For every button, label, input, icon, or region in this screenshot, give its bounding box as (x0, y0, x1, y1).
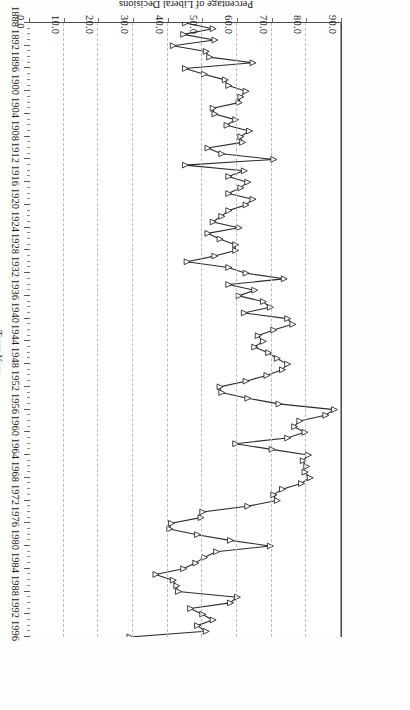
data-point-marker (247, 128, 253, 134)
gridline-80.0 (305, 23, 306, 637)
rotated-figure: 0.010.020.030.040.050.060.070.080.090.0 … (0, 0, 410, 710)
data-point-marker (236, 225, 242, 231)
data-point-marker (271, 327, 277, 333)
term-year-tick-minor (27, 306, 30, 307)
term-year-tick-minor (27, 85, 30, 86)
data-point-marker (214, 549, 220, 555)
data-point-marker (226, 265, 232, 271)
data-point-marker (250, 60, 256, 66)
data-point-marker (212, 111, 218, 117)
term-year-tick-minor (27, 170, 30, 171)
term-year-tick-major (24, 318, 30, 319)
term-year-tick-minor (27, 198, 30, 199)
term-year-tick-minor (27, 33, 30, 34)
data-point-marker (307, 475, 313, 481)
term-year-tick-minor (27, 39, 30, 40)
data-point-marker (226, 191, 232, 197)
term-year-tick-minor (27, 357, 30, 358)
data-point-marker (207, 54, 213, 60)
term-year-tick-major (24, 90, 30, 91)
term-year-tick-minor (27, 528, 30, 529)
term-year-tick-minor (27, 414, 30, 415)
term-year-tick-major (24, 591, 30, 592)
percentage-tick-label: 90.0 (327, 15, 338, 34)
data-point-marker (280, 486, 286, 492)
term-year-tick-minor (27, 443, 30, 444)
data-point-marker (243, 88, 249, 94)
term-year-tick-label: 1892 (10, 29, 21, 50)
term-year-tick-minor (27, 471, 30, 472)
term-year-tick-minor (27, 585, 30, 586)
term-year-tick-minor (27, 562, 30, 563)
term-year-tick-label: 1960 (10, 415, 21, 436)
data-point-marker (202, 71, 208, 77)
data-point-marker (210, 617, 216, 623)
term-year-tick-minor (27, 50, 30, 51)
term-year-tick-minor (27, 374, 30, 375)
term-year-tick-minor (27, 301, 30, 302)
term-year-tick-minor (27, 397, 30, 398)
term-year-tick-major (24, 613, 30, 614)
data-point-marker (169, 520, 175, 526)
gridline-40.0 (167, 23, 168, 637)
term-year-tick-label: 1924 (10, 211, 21, 232)
data-point-marker (176, 589, 182, 595)
term-year-tick-minor (27, 579, 30, 580)
data-series-layer (29, 23, 341, 637)
percentage-tick (237, 18, 238, 23)
data-point-marker (226, 282, 232, 288)
data-point-marker (245, 179, 251, 185)
term-year-tick-minor (27, 130, 30, 131)
data-point-marker (274, 498, 280, 504)
term-year-tick-minor (27, 215, 30, 216)
term-year-tick-minor (27, 488, 30, 489)
data-point-marker (212, 253, 218, 259)
data-point-marker (202, 555, 208, 561)
term-year-tick-label: 1896 (10, 51, 21, 72)
term-year-tick-minor (27, 238, 30, 239)
term-year-tick-label: 1948 (10, 347, 21, 368)
data-point-marker (222, 77, 228, 83)
term-year-tick-major (24, 454, 30, 455)
data-point-marker (297, 418, 303, 424)
term-year-tick-label: 1908 (10, 120, 21, 141)
term-year-tick-minor (27, 625, 30, 626)
gridline-60.0 (236, 23, 237, 637)
term-year-tick-minor (27, 210, 30, 211)
term-year-tick-major (24, 522, 30, 523)
term-year-tick-minor (27, 534, 30, 535)
data-point-marker (332, 407, 338, 413)
term-year-tick-minor (27, 176, 30, 177)
percentage-tick (64, 18, 65, 23)
term-year-tick-minor (27, 494, 30, 495)
term-year-tick-minor (27, 28, 30, 29)
data-point-marker (241, 310, 247, 316)
term-year-tick-minor (27, 505, 30, 506)
term-year-tick-minor (27, 244, 30, 245)
term-year-tick-minor (27, 551, 30, 552)
term-year-tick-major (24, 227, 30, 228)
term-year-tick-label: 1920 (10, 188, 21, 209)
term-year-tick-minor (27, 102, 30, 103)
chart-page: 0.010.020.030.040.050.060.070.080.090.0 … (0, 0, 410, 710)
term-year-tick-minor (27, 79, 30, 80)
term-year-tick-minor (27, 426, 30, 427)
term-year-tick-minor (27, 352, 30, 353)
term-year-tick-minor (27, 323, 30, 324)
percentage-tick-label: 20.0 (84, 15, 95, 34)
gridline-30.0 (132, 23, 133, 637)
gridline-90.0 (340, 23, 341, 637)
data-point-marker (181, 31, 187, 37)
data-point-marker (182, 66, 188, 72)
term-year-tick-minor (27, 312, 30, 313)
data-point-marker (203, 49, 209, 55)
data-point-marker (243, 378, 249, 384)
term-year-tick-label: 1904 (10, 97, 21, 118)
term-year-tick-minor (27, 539, 30, 540)
term-year-tick-minor (27, 465, 30, 466)
data-point-marker (250, 196, 256, 202)
term-year-tick-major (24, 386, 30, 387)
data-point-marker (271, 157, 277, 163)
data-point-marker (274, 356, 280, 362)
percentage-tick-label: 60.0 (223, 15, 234, 34)
